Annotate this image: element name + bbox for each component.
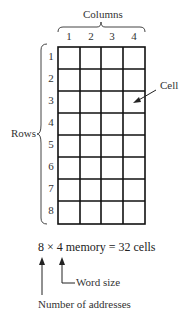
memory-grid bbox=[58, 47, 145, 224]
row-number: 6 bbox=[46, 160, 56, 172]
column-number: 2 bbox=[80, 30, 102, 42]
row-number: 1 bbox=[46, 50, 56, 62]
cell-label: Cell bbox=[160, 79, 178, 91]
rows-brace bbox=[37, 44, 47, 224]
row-number: 2 bbox=[46, 72, 56, 84]
column-number: 3 bbox=[101, 30, 123, 42]
memory-diagram-lines bbox=[0, 0, 184, 321]
row-number: 4 bbox=[46, 116, 56, 128]
addresses-arrowhead bbox=[39, 257, 45, 265]
cell-arrowhead bbox=[133, 97, 141, 103]
word-size-label: Word size bbox=[76, 276, 120, 288]
memory-equation: 8 × 4 memory = 32 cells bbox=[38, 240, 156, 255]
row-number: 3 bbox=[46, 94, 56, 106]
row-number: 5 bbox=[46, 138, 56, 150]
rows-label: Rows bbox=[11, 127, 36, 139]
row-number: 8 bbox=[46, 204, 56, 216]
row-number: 7 bbox=[46, 182, 56, 194]
columns-label: Columns bbox=[83, 8, 123, 20]
column-number: 1 bbox=[58, 30, 80, 42]
column-number: 4 bbox=[123, 30, 145, 42]
addresses-label: Number of addresses bbox=[38, 298, 131, 310]
word-size-arrowhead bbox=[59, 257, 65, 265]
